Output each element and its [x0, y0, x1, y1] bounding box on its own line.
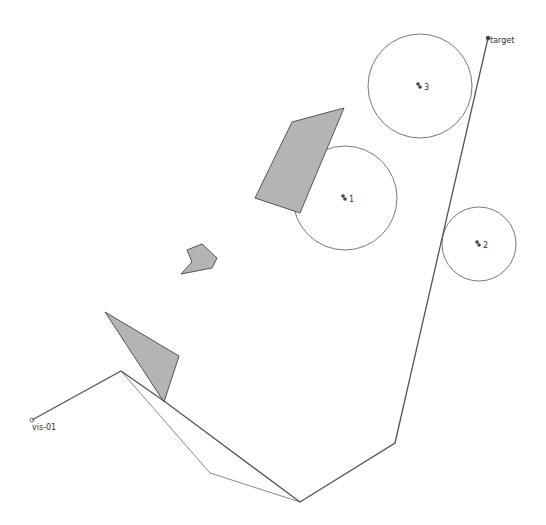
zone-circles: 123 [293, 34, 516, 281]
obstacle-small-poly [181, 244, 217, 274]
obstacle-quad [255, 108, 344, 213]
zone-center-marker-icon [343, 197, 347, 201]
zone-center-marker-icon [475, 240, 479, 244]
obstacles [105, 108, 344, 402]
zone-center-marker-icon [418, 85, 422, 89]
endpoints: vis-01 target [30, 36, 514, 432]
path-planning-diagram: 123 vis-01 target [0, 0, 546, 525]
zone-label: 3 [424, 83, 429, 92]
zone-center-marker-icon [477, 243, 481, 247]
obstacle-triangle [105, 312, 179, 402]
start-label: vis-01 [32, 423, 56, 432]
zone-center-marker-icon [416, 82, 420, 86]
zone-center-marker-icon [341, 194, 345, 198]
target-label: target [490, 36, 514, 45]
zone-label: 1 [349, 195, 354, 204]
main-path [32, 38, 488, 502]
zone-label: 2 [483, 241, 488, 250]
